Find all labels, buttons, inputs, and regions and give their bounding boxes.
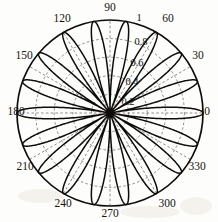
angular-tick-label-300: 300 [158, 197, 176, 209]
angular-tick-label-210: 210 [16, 160, 34, 172]
angular-tick-label-330: 330 [188, 160, 206, 172]
angular-tick-label-240: 240 [54, 197, 72, 209]
angular-tick-label-0: 0 [204, 105, 210, 117]
angular-tick-label-150: 150 [15, 49, 33, 61]
radial-tick-label-0-6: 0.6 [130, 57, 143, 68]
angular-tick-label-90: 90 [104, 1, 116, 13]
polar-rose-chart: 0306090120150180210240270300330 10.80.60… [0, 0, 218, 222]
angular-tick-label-60: 60 [162, 12, 174, 24]
angular-tick-label-270: 270 [101, 207, 119, 219]
polar-plot-svg: 0306090120150180210240270300330 10.80.60… [0, 0, 218, 222]
radial-tick-label-0-2: 0.2 [121, 96, 134, 107]
angular-tick-label-120: 120 [53, 12, 71, 24]
angular-tick-label-30: 30 [192, 49, 204, 61]
angular-tick-label-180: 180 [7, 105, 25, 117]
radial-tick-label-0-8: 0.8 [134, 36, 147, 47]
radial-tick-label-1: 1 [136, 12, 141, 23]
radial-tick-label-0-4: 0.4 [125, 76, 139, 87]
